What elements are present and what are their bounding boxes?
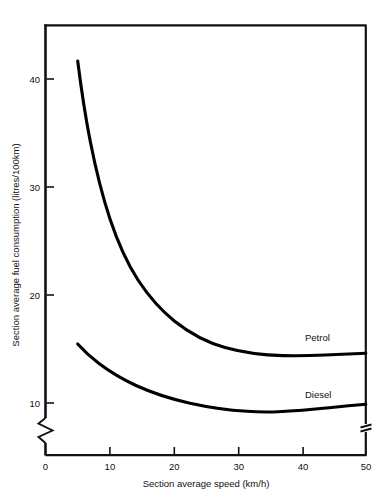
y-tick-label-40: 40 bbox=[29, 74, 40, 85]
y-axis-break-symbol bbox=[39, 418, 53, 443]
x-tick-label-30: 30 bbox=[233, 461, 244, 472]
y-axis-title: Section average fuel consumption (litres… bbox=[10, 143, 21, 346]
x-tick-label-10: 10 bbox=[105, 461, 116, 472]
x-tick-label-40: 40 bbox=[298, 461, 309, 472]
y-tick-label-30: 30 bbox=[29, 182, 40, 193]
x-tick-label-0: 0 bbox=[43, 461, 48, 472]
petrol-curve bbox=[78, 61, 366, 356]
chart-figure: 40 30 20 10 0 10 20 30 40 50 Section ave… bbox=[0, 0, 390, 497]
y-axis-ticks bbox=[47, 79, 55, 403]
series-label-diesel: Diesel bbox=[305, 389, 331, 400]
y-tick-label-10: 10 bbox=[29, 398, 40, 409]
y-tick-label-20: 20 bbox=[29, 290, 40, 301]
x-axis-title: Section average speed (km/h) bbox=[143, 478, 270, 489]
right-axis-break-symbol bbox=[361, 425, 372, 432]
fuel-consumption-line-chart: 40 30 20 10 0 10 20 30 40 50 Section ave… bbox=[0, 0, 390, 497]
series-label-petrol: Petrol bbox=[305, 332, 330, 343]
x-tick-label-20: 20 bbox=[169, 461, 180, 472]
x-tick-label-50: 50 bbox=[361, 461, 372, 472]
x-axis-ticks bbox=[110, 447, 303, 454]
